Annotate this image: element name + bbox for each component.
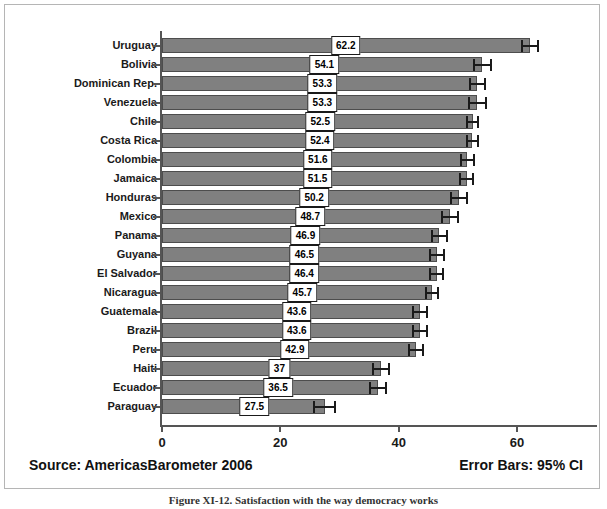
bar-value-label: 42.9	[280, 340, 309, 359]
error-bar-cap-high	[484, 78, 486, 90]
category-label: Mexico	[120, 207, 157, 226]
category-tick	[153, 387, 160, 389]
bar-row: Venezuela53.3	[5, 93, 601, 112]
x-axis-tick	[516, 425, 518, 432]
category-tick	[153, 235, 160, 237]
category-tick	[153, 330, 160, 332]
category-label: Paraguay	[107, 397, 157, 416]
plot-area: Uruguay62.2Bolivia54.1Dominican Rep.53.3…	[5, 5, 601, 490]
category-tick	[153, 102, 160, 104]
error-bar-cap-high	[466, 192, 468, 204]
bar-row: El Salvador46.4	[5, 264, 601, 283]
bar-row: Haiti37	[5, 359, 601, 378]
category-label: Guatemala	[101, 302, 157, 321]
category-label: Dominican Rep.	[74, 74, 157, 93]
bar-row: Nicaragua45.7	[5, 283, 601, 302]
x-axis-tick	[279, 425, 281, 432]
bar-row: Costa Rica52.4	[5, 131, 601, 150]
error-bar-cap-high	[477, 116, 479, 128]
error-bar-cap-high	[490, 59, 492, 71]
error-bar-cap-low	[521, 40, 523, 52]
category-label: Guyana	[117, 245, 157, 264]
x-axis-tick-label: 0	[158, 435, 165, 450]
error-bar-note: Error Bars: 95% CI	[459, 457, 583, 473]
bar-row: Honduras50.2	[5, 188, 601, 207]
error-bar-cap-low	[466, 135, 468, 147]
x-axis-tick-label: 20	[273, 435, 287, 450]
bar-value-label: 43.6	[282, 302, 311, 321]
category-label: Uruguay	[112, 36, 157, 55]
error-bar-cap-high	[473, 154, 475, 166]
error-bar-cap-low	[408, 344, 410, 356]
category-tick	[153, 292, 160, 294]
bar-row: Panama46.9	[5, 226, 601, 245]
bar-value-label: 43.6	[282, 321, 311, 340]
error-bar-cap-high	[385, 382, 387, 394]
bar-row: Peru42.9	[5, 340, 601, 359]
error-bar-cap-low	[466, 116, 468, 128]
category-label: Costa Rica	[100, 131, 157, 150]
category-tick	[153, 311, 160, 313]
x-axis-tick	[398, 425, 400, 432]
category-tick	[153, 406, 160, 408]
bar-value-label: 53.3	[308, 93, 337, 112]
error-bar-cap-low	[425, 287, 427, 299]
error-bar-cap-low	[429, 268, 431, 280]
category-tick	[153, 216, 160, 218]
bar-row: Jamaica51.5	[5, 169, 601, 188]
bar-value-label: 36.5	[263, 378, 292, 397]
error-bar-cap-high	[426, 325, 428, 337]
error-bar-cap-low	[369, 382, 371, 394]
bar-value-label: 52.4	[305, 131, 334, 150]
error-bar-cap-high	[485, 97, 487, 109]
error-bar-cap-low	[468, 97, 470, 109]
error-bar-cap-low	[460, 154, 462, 166]
error-bar-cap-low	[429, 249, 431, 261]
x-axis-tick-label: 40	[391, 435, 405, 450]
category-label: Colombia	[107, 150, 157, 169]
bar-value-label: 45.7	[288, 283, 317, 302]
bar-row: Chile52.5	[5, 112, 601, 131]
bar-value-label: 50.2	[299, 188, 328, 207]
error-bar-cap-low	[372, 363, 374, 375]
category-tick	[153, 64, 160, 66]
category-label: Venezuela	[104, 93, 157, 112]
error-bar-cap-low	[441, 211, 443, 223]
category-tick	[153, 178, 160, 180]
bar-value-label: 52.5	[305, 112, 334, 131]
bar-value-label: 46.5	[290, 245, 319, 264]
bar-value-label: 53.3	[308, 74, 337, 93]
error-bar-cap-high	[446, 230, 448, 242]
bar-row: Mexico48.7	[5, 207, 601, 226]
category-label: Bolivia	[121, 55, 157, 74]
bar-row: Guatemala43.6	[5, 302, 601, 321]
error-bar	[313, 406, 335, 408]
bar-row: Bolivia54.1	[5, 55, 601, 74]
error-bar-cap-low	[313, 401, 315, 413]
figure-caption: Figure XI-12. Satisfaction with the way …	[0, 494, 607, 509]
error-bar-cap-high	[334, 401, 336, 413]
error-bar-cap-high	[442, 268, 444, 280]
category-label: Nicaragua	[104, 283, 157, 302]
category-tick	[153, 45, 160, 47]
bar-value-label: 27.5	[240, 397, 269, 416]
error-bar-cap-high	[472, 173, 474, 185]
category-label: El Salvador	[97, 264, 157, 283]
category-label: Jamaica	[114, 169, 157, 188]
bar-value-label: 48.7	[295, 207, 324, 226]
error-bar-cap-high	[437, 287, 439, 299]
error-bar-cap-low	[431, 230, 433, 242]
error-bar-cap-low	[473, 59, 475, 71]
category-tick	[153, 159, 160, 161]
error-bar-cap-low	[412, 306, 414, 318]
category-label: Honduras	[106, 188, 157, 207]
error-bar-cap-high	[426, 306, 428, 318]
bar-row: Brazil43.6	[5, 321, 601, 340]
category-label: Ecuador	[113, 378, 157, 397]
category-label: Panama	[115, 226, 157, 245]
bar-row: Ecuador36.5	[5, 378, 601, 397]
bar-row: Guyana46.5	[5, 245, 601, 264]
bar-value-label: 54.1	[310, 55, 339, 74]
error-bar-cap-high	[443, 249, 445, 261]
error-bar-cap-low	[469, 78, 471, 90]
